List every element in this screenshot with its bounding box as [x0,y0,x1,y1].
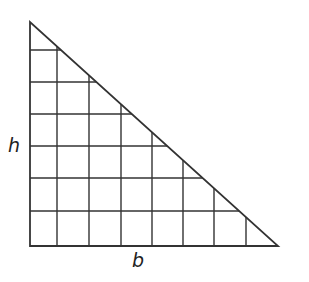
triangle-grid-diagram [0,0,309,282]
height-label: h [8,136,20,155]
triangle-outline [30,22,278,246]
base-label: b [132,251,144,270]
